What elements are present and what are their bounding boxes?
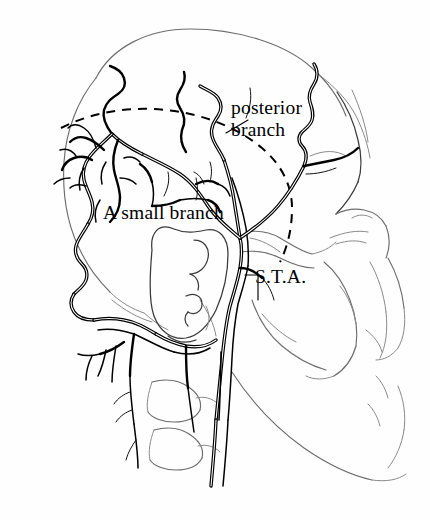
cervical-vertebrae	[147, 380, 220, 470]
carotid-trunk	[78, 319, 228, 487]
label-sta: S.T.A.	[255, 266, 306, 287]
anatomical-illustration: posterior branch A small branch S.T.A.	[0, 0, 430, 520]
frontal-temporal-ridge	[310, 90, 368, 214]
label-posterior-branch-line1: posterior	[231, 97, 302, 118]
illustration-canvas: posterior branch A small branch S.T.A.	[0, 0, 430, 520]
label-a-small-branch: A small branch	[103, 202, 224, 223]
ear-auricle	[150, 227, 228, 342]
cranial-vault-outline	[64, 29, 370, 313]
label-posterior-branch-line2: branch	[231, 119, 285, 140]
mandible	[232, 300, 406, 481]
orbital-rim	[330, 209, 389, 258]
maxilla	[306, 262, 387, 379]
